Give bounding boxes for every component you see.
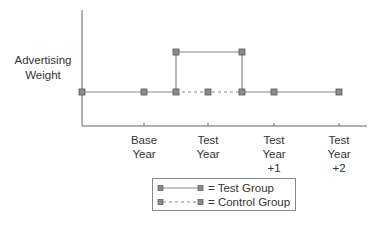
tick-label-test-year: Test Year [183,133,233,161]
legend-item-control-group: = Control Group [157,195,293,209]
legend: = Test Group = Control Group [152,178,296,211]
tick-label-test-year-plus-2: Test Year +2 [314,133,364,175]
y-axis-label-line2: Weight [8,68,78,83]
solid-line-swatch-icon [157,182,205,194]
data-markers [79,49,342,95]
legend-label: = Control Group [208,195,290,209]
tick-label-base-year: Base Year [119,133,169,161]
legend-label: = Test Group [208,181,274,195]
test-group-line [82,52,339,92]
tick-label-test-year-plus-1: Test Year +1 [249,133,299,175]
y-axis-label: Advertising Weight [8,53,78,83]
legend-item-test-group: = Test Group [157,181,293,195]
y-axis-label-line1: Advertising [8,53,78,68]
dashed-line-swatch-icon [157,196,205,208]
